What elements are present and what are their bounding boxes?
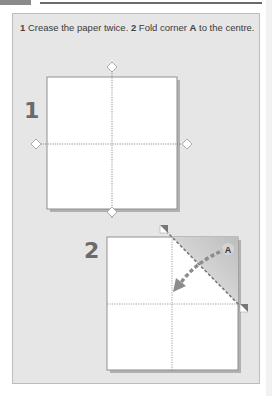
diagram2: A [100,224,260,376]
fold-marker-right-icon [240,304,248,312]
diagram1 [26,62,206,232]
diagram2-step-number: 2 [84,238,99,263]
step2-text-a: Fold corner [136,22,189,33]
step2-text-b: to the centre. [196,22,254,33]
crease-marker-left-icon [31,139,41,149]
diagram2-square: A [100,224,260,376]
step1-text: Crease the paper twice. [25,22,131,33]
page-edge [266,0,272,396]
instruction-caption: 1 Crease the paper twice. 2 Fold corner … [20,20,256,36]
crease-marker-top-icon [107,62,117,72]
crease-marker-right-icon [182,139,192,149]
header-rule [40,2,262,4]
diagram1-square [26,62,206,232]
corner-a-label: A [225,245,232,255]
fold-marker-top-icon [160,225,168,233]
chapter-tab [0,0,31,5]
